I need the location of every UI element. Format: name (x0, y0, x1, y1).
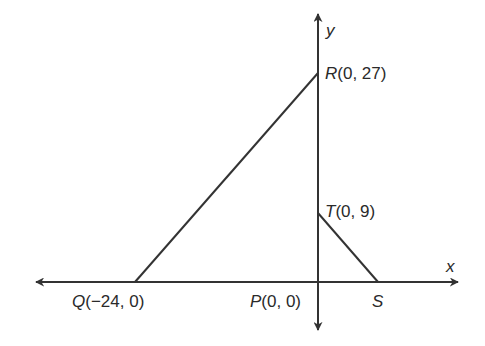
point-t-label: T(0, 9) (325, 203, 375, 220)
point-r-label: R(0, 27) (325, 65, 386, 82)
point-s-label: S (372, 293, 383, 310)
x-axis-label: x (446, 258, 455, 275)
segment-qr (135, 73, 318, 282)
segment-ts (318, 213, 378, 282)
y-axis-label: y (326, 22, 335, 39)
point-q-label: Q(−24, 0) (72, 293, 144, 310)
point-p-label: P(0, 0) (250, 293, 301, 310)
